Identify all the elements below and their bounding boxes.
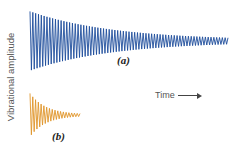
time-axis-label: Time	[155, 90, 202, 100]
arrow-right-icon	[178, 91, 202, 99]
label-b: (b)	[52, 130, 65, 142]
waveform-plot	[0, 0, 230, 154]
waveform-b	[30, 93, 80, 134]
time-label-text: Time	[155, 90, 175, 100]
y-axis-label: Vibrational amplitude	[5, 33, 16, 122]
label-a: (a)	[117, 54, 130, 66]
